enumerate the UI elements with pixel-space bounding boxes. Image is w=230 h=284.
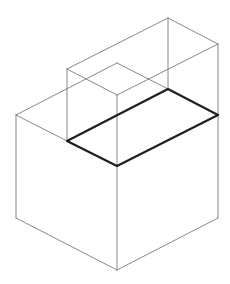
upper-box-top-front-edge <box>117 44 218 95</box>
bold-contact-face <box>67 89 218 166</box>
lower-cube-bottom-left-edge <box>16 218 117 270</box>
isometric-solid-drawing <box>0 0 230 284</box>
diagram-canvas <box>0 0 230 284</box>
lower-cube-top-back-right-edge <box>117 63 168 89</box>
lower-cube-top-front-left-edge <box>16 115 67 141</box>
lower-cube-top-back-left-edge <box>16 63 117 115</box>
upper-box-top-right-edge <box>168 18 218 44</box>
lower-cube-bottom-right-edge <box>117 218 218 270</box>
upper-box-top-left-edge <box>67 69 117 95</box>
upper-box <box>67 18 218 166</box>
contact-face-highlight <box>67 89 218 166</box>
upper-box-top-back-edge <box>67 18 168 69</box>
